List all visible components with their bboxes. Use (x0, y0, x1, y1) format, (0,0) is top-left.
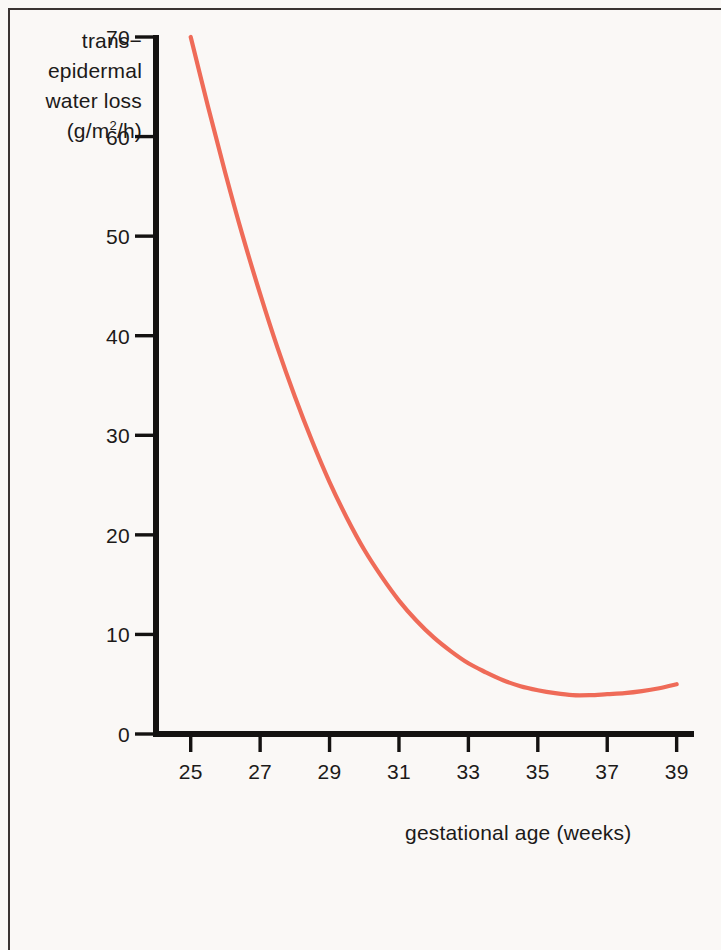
y-axis-tick-label: 70 (88, 26, 130, 50)
x-axis-tick-label: 25 (170, 760, 212, 784)
y-axis-tick-label: 50 (88, 225, 130, 249)
x-axis-tick-label: 27 (239, 760, 281, 784)
x-axis-tick-label: 33 (447, 760, 489, 784)
y-axis-tick-label: 60 (88, 126, 130, 150)
axis-lines (153, 35, 694, 737)
y-axis-tick-label: 10 (88, 623, 130, 647)
y-axis-tick-label: 30 (88, 424, 130, 448)
data-curve-transepidermal-water-loss (191, 37, 677, 695)
figure-container: trans− epidermal water loss (g/m2/h) ges… (0, 0, 721, 950)
x-axis-tick-label: 31 (378, 760, 420, 784)
y-axis-ticks (135, 37, 156, 734)
y-axis-tick-label: 0 (88, 723, 130, 747)
x-axis-tick-label: 35 (517, 760, 559, 784)
x-axis-tick-label: 39 (656, 760, 698, 784)
y-axis-tick-label: 40 (88, 325, 130, 349)
x-axis-tick-label: 29 (309, 760, 351, 784)
y-axis-tick-label: 20 (88, 524, 130, 548)
x-axis-tick-label: 37 (586, 760, 628, 784)
